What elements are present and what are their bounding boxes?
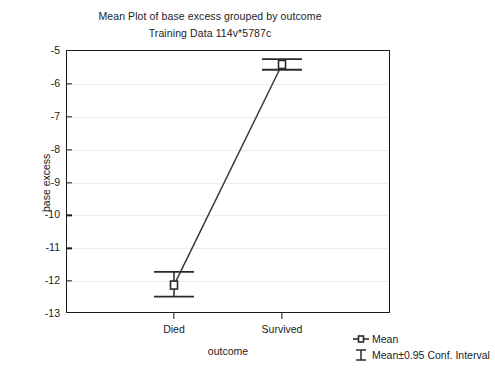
x-axis-label: outcome	[208, 345, 248, 357]
y-axis-tick-label: -5	[26, 44, 60, 56]
y-axis-tick-label: -8	[26, 143, 60, 155]
mean-marker-icon	[352, 332, 370, 346]
y-axis-tick-label: -7	[26, 110, 60, 122]
mean-marker	[171, 281, 178, 289]
chart-subtitle: Training Data 114v*5787c	[0, 27, 420, 39]
y-axis-tick-label: -13	[26, 307, 60, 319]
series-line	[174, 64, 282, 285]
legend-label-mean: Mean	[370, 333, 398, 345]
y-axis-tick-label: -10	[26, 208, 60, 220]
y-axis-tick-label: -9	[26, 176, 60, 188]
x-axis-tick-label: Died	[163, 323, 185, 335]
x-axis-tick-mark	[173, 313, 174, 319]
conf-interval-icon	[352, 348, 370, 362]
mean-marker	[279, 60, 286, 68]
series-layer	[66, 50, 390, 313]
legend-item-conf-interval: Mean±0.95 Conf. Interval	[352, 347, 490, 363]
chart-legend: Mean Mean±0.95 Conf. Interval	[352, 331, 490, 363]
y-axis-tick-label: -6	[26, 77, 60, 89]
x-axis-tick-label: Survived	[262, 323, 303, 335]
legend-item-mean: Mean	[352, 331, 490, 347]
x-axis-tick-mark	[281, 313, 282, 319]
mean-plot-figure: Mean Plot of base excess grouped by outc…	[0, 0, 495, 378]
y-axis-tick-label: -12	[26, 274, 60, 286]
y-axis-tick-label: -11	[26, 241, 60, 253]
chart-title: Mean Plot of base excess grouped by outc…	[0, 10, 420, 22]
legend-label-conf-interval: Mean±0.95 Conf. Interval	[370, 349, 490, 361]
